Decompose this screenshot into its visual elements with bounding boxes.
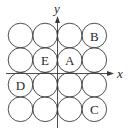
circle-r4-c3 bbox=[57, 97, 82, 122]
circle-label-e: E bbox=[41, 53, 49, 68]
circle-r3-c2 bbox=[33, 72, 58, 97]
circle-label-b: B bbox=[90, 29, 99, 44]
y-axis-arrow-icon bbox=[55, 16, 60, 23]
circle-r4-c1 bbox=[8, 97, 33, 122]
circle-r4-c2 bbox=[33, 97, 58, 122]
circle-grid-diagram: x y BEADC bbox=[0, 0, 130, 133]
circle-r3-c3 bbox=[57, 72, 82, 97]
circle-r2-c1 bbox=[8, 48, 33, 73]
circle-r1-c2 bbox=[33, 23, 58, 48]
x-axis-arrow-icon bbox=[107, 71, 114, 76]
circle-label-a: A bbox=[65, 53, 75, 68]
y-axis-label: y bbox=[52, 1, 60, 16]
x-axis-label: x bbox=[116, 66, 123, 81]
circle-r1-c1 bbox=[8, 23, 33, 48]
circle-r1-c3 bbox=[57, 23, 82, 48]
circle-label-c: C bbox=[90, 102, 99, 117]
circle-label-d: D bbox=[16, 78, 25, 93]
circle-r2-c4 bbox=[82, 48, 107, 73]
circle-r3-c4 bbox=[82, 72, 107, 97]
